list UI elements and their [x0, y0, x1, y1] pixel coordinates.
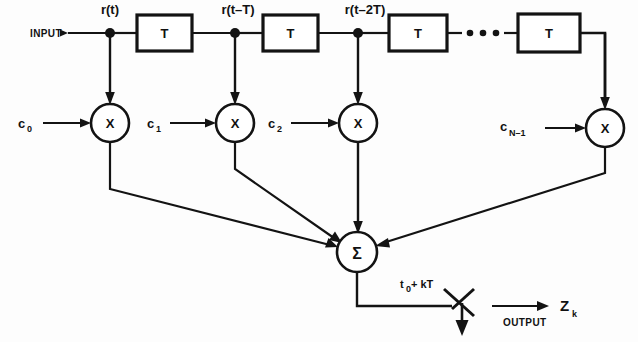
coefficient-cN-symbol: c	[500, 119, 507, 134]
sampler-timing-prefix: t	[400, 278, 404, 290]
wire-multN-to-summer	[375, 147, 605, 248]
wire-summer-to-sampler	[357, 272, 452, 306]
tap-drop-0	[105, 33, 115, 105]
coefficient-c1-symbol: c	[147, 116, 154, 131]
coefficient-c2-subscript: 2	[277, 124, 282, 134]
wire-delay4-to-multN	[580, 33, 605, 100]
sampler-switch[interactable]	[444, 289, 474, 336]
coefficient-cN: c N–1	[500, 119, 586, 138]
signal-label-tap2: r(t–2T)	[345, 2, 385, 17]
delay-block-2[interactable]: T	[263, 15, 318, 51]
output-subscript: k	[572, 309, 578, 319]
tap-drop-1	[230, 33, 240, 105]
coefficient-cN-arrowhead-icon	[575, 124, 586, 133]
ellipsis-dots-icon	[467, 30, 500, 37]
output-arrow	[492, 301, 549, 311]
sampler-timing-label: t 0 + kT	[400, 278, 434, 294]
sampler-switch-arrowhead-icon	[456, 320, 469, 336]
output-signal-symbol: Z k	[560, 297, 578, 319]
delay-block-1-label: T	[161, 26, 169, 41]
delay-block-3-label: T	[414, 26, 422, 41]
input-label: INPUT	[30, 28, 62, 39]
multiplier-2-label: X	[354, 116, 363, 131]
coefficient-c0-symbol: c	[18, 116, 25, 131]
summer-label: Σ	[352, 245, 362, 262]
output-label: OUTPUT	[503, 317, 547, 328]
coefficient-c2: c 2	[268, 116, 339, 134]
output-arrowhead-icon	[537, 301, 549, 311]
wire-mult0-to-summer	[110, 142, 338, 248]
delay-block-4-label: T	[545, 26, 553, 41]
coefficient-c1: c 1	[147, 116, 216, 134]
multiplier-N-label: X	[601, 121, 610, 136]
coefficient-c0-subscript: 0	[27, 124, 32, 134]
wire-mult2-to-summer	[353, 142, 363, 234]
delay-block-1[interactable]: T	[137, 15, 192, 51]
signal-label-tap0: r(t)	[101, 2, 119, 17]
coefficient-c0: c 0	[18, 116, 91, 134]
sampler-timing-suffix: + kT	[411, 278, 434, 290]
tap-drop-2	[353, 33, 363, 105]
coefficient-c2-arrowhead-icon	[328, 119, 339, 128]
summer-node[interactable]: Σ	[337, 232, 377, 272]
signal-label-tap1: r(t–T)	[221, 2, 254, 17]
delay-block-3[interactable]: T	[389, 15, 447, 51]
wire-mult1-to-summer	[235, 142, 342, 243]
coefficient-cN-subscript: N–1	[509, 128, 526, 138]
multiplier-N[interactable]: X	[586, 109, 624, 147]
coefficient-c1-subscript: 1	[156, 124, 161, 134]
delay-block-4[interactable]: T	[518, 14, 580, 52]
diagram-canvas: T T T T	[0, 0, 638, 342]
output-symbol: Z	[560, 297, 569, 314]
multiplier-0[interactable]: X	[91, 104, 129, 142]
transversal-filter-diagram: T T T T	[0, 0, 638, 342]
multiplier-2[interactable]: X	[339, 104, 377, 142]
multiplier-1-label: X	[231, 116, 240, 131]
coefficient-c0-arrowhead-icon	[80, 119, 91, 128]
multiplier-1[interactable]: X	[216, 104, 254, 142]
delay-block-2-label: T	[287, 26, 295, 41]
multiplier-0-label: X	[106, 116, 115, 131]
coefficient-c1-arrowhead-icon	[205, 119, 216, 128]
tap-drop-N	[600, 33, 610, 110]
coefficient-c2-symbol: c	[268, 116, 275, 131]
